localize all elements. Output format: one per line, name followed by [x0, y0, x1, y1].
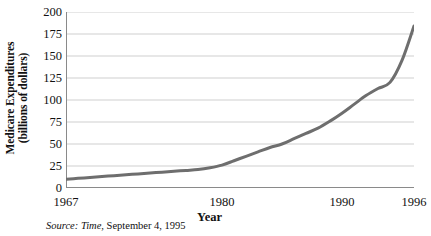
- y-tick-label: 0: [32, 182, 62, 194]
- source-note: Source: Time, September 4, 1995: [46, 220, 186, 231]
- source-prefix: Source:: [46, 220, 78, 231]
- y-axis-title-line1: Medicare Expenditures: [4, 42, 17, 155]
- gridlines: [66, 12, 414, 166]
- x-tick-label: 1990: [330, 196, 355, 209]
- data-line-medicare-expenditures: [66, 26, 414, 179]
- source-rest: , September 4, 1995: [101, 220, 185, 231]
- y-tick-label: 150: [32, 50, 62, 62]
- y-axis-title: Medicare Expenditures (billions of dolla…: [0, 0, 34, 196]
- y-tick-label: 100: [32, 94, 62, 106]
- y-tick-label: 25: [32, 160, 62, 172]
- y-axis-tick-labels: 0255075100125150175200: [30, 0, 62, 196]
- y-tick-label: 75: [32, 116, 62, 128]
- y-axis-title-line2: (billions of dollars): [17, 42, 30, 155]
- x-tick-label: 1967: [54, 196, 79, 209]
- y-tick-label: 175: [32, 28, 62, 40]
- y-tick-label: 200: [32, 6, 62, 18]
- plot-area: [66, 12, 414, 188]
- x-axis-title-text: Year: [197, 210, 222, 224]
- x-tick-label: 1996: [402, 196, 427, 209]
- source-publication: Time: [81, 220, 101, 231]
- y-tick-label: 125: [32, 72, 62, 84]
- y-tick-label: 50: [32, 138, 62, 150]
- x-tick-label: 1980: [210, 196, 235, 209]
- medicare-expenditures-chart: Medicare Expenditures (billions of dolla…: [0, 0, 431, 236]
